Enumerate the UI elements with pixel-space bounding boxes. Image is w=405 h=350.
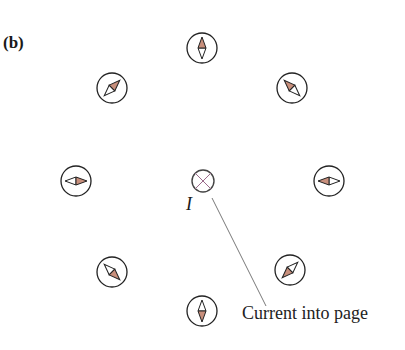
compass-icon xyxy=(314,166,344,196)
current-label: I xyxy=(186,194,192,215)
compass-icon xyxy=(187,296,217,326)
compass-icon xyxy=(97,73,127,103)
compass-field-diagram: (b) I Current into page xyxy=(0,0,405,350)
diagram-canvas xyxy=(0,0,405,350)
compass-icon xyxy=(61,166,91,196)
leader-line xyxy=(212,198,266,306)
compass-icon xyxy=(277,73,307,103)
compass-icon xyxy=(187,33,217,63)
compass-icon xyxy=(275,255,305,285)
panel-label: (b) xyxy=(3,33,24,53)
current-annotation: Current into page xyxy=(242,303,368,324)
current-into-page-icon xyxy=(192,170,214,192)
compass-icon xyxy=(97,257,127,287)
